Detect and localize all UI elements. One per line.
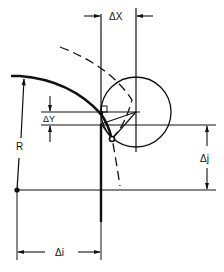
radius-line-lower — [17, 158, 19, 190]
contact-point — [99, 111, 104, 116]
lower-contact-point — [110, 137, 115, 142]
vertical-reference-lines — [17, 8, 136, 260]
delta-j-label: Δj — [200, 153, 209, 164]
geometry-diagram: R ΔX ΔY Δj Δi — [0, 0, 224, 272]
delta-i-label: Δi — [55, 247, 64, 258]
radius-label: R — [16, 141, 23, 152]
radius-line-upper — [21, 79, 24, 138]
delta-x-label: ΔX — [109, 11, 123, 22]
delta-y-label: ΔY — [43, 114, 55, 124]
profile-arc — [11, 76, 111, 136]
